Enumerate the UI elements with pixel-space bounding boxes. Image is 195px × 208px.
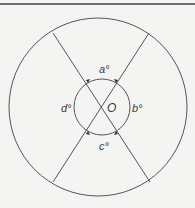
angle-label-a: a° bbox=[99, 63, 110, 75]
angle-label-c: c° bbox=[99, 140, 110, 152]
inner-circle bbox=[74, 79, 130, 135]
angle-label-b: b° bbox=[132, 102, 143, 114]
angle-label-d: d° bbox=[61, 102, 72, 114]
center-label-O: O bbox=[107, 101, 116, 115]
circle-diagram: a° b° c° d° O bbox=[0, 0, 195, 208]
outer-circle bbox=[9, 18, 187, 196]
